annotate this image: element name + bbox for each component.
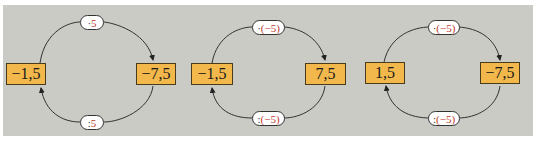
cycle-3-left-value: 1,5	[365, 62, 405, 84]
operand: 5	[91, 117, 97, 129]
value-text: −7,5	[485, 64, 514, 82]
cycle-1-right-value: −7,5	[136, 63, 176, 85]
cycle-1-bottom-operation: :5	[80, 115, 104, 130]
cycle-2-left-value: −1,5	[191, 63, 233, 85]
value-text: 1,5	[375, 64, 395, 82]
operand: (−5)	[436, 113, 455, 125]
operand: (−5)	[436, 22, 455, 34]
operand: 5	[91, 17, 97, 29]
cycle-2-bottom-operation: :(−5)	[252, 111, 285, 126]
operand: (−5)	[261, 113, 280, 125]
cycle-3-bottom-operation: :(−5)	[428, 111, 460, 126]
cycle-1-top-operation: ·5	[80, 15, 104, 30]
cycle-3-right-value: −7,5	[480, 62, 520, 84]
value-text: 7,5	[316, 65, 336, 83]
operand: (−5)	[261, 22, 280, 34]
cycle-2-right-value: 7,5	[305, 63, 346, 85]
cycle-2-top-operation: ·(−5)	[252, 20, 285, 35]
cycle-3-top-operation: ·(−5)	[428, 20, 460, 35]
value-text: −1,5	[197, 65, 226, 83]
value-text: −1,5	[11, 65, 40, 83]
value-text: −7,5	[141, 65, 170, 83]
cycle-1-left-value: −1,5	[6, 63, 46, 85]
